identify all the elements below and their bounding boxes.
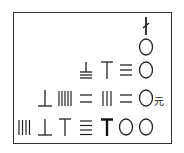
rod-two-horizontal-glyph [118, 88, 134, 108]
zero-glyph [138, 60, 154, 80]
zero-glyph [138, 37, 154, 57]
rod-six-vertical-glyph [57, 117, 73, 137]
unit-label: 元 [154, 93, 164, 108]
zero-glyph [118, 117, 134, 137]
rod-five-vertical-glyph [57, 88, 73, 108]
zero-glyph [138, 117, 154, 137]
negative-rod-glyph [138, 16, 154, 36]
rod-four-vertical-glyph [16, 117, 32, 137]
rod-eight-horizontal-glyph [78, 60, 94, 80]
rod-six-vertical-glyph [99, 60, 115, 80]
rod-two-horizontal-glyph [78, 88, 94, 108]
rod-six-horizontal-glyph [37, 117, 53, 137]
rod-six-horizontal-glyph [37, 88, 53, 108]
zero-glyph [138, 88, 154, 108]
rod-three-horizontal-glyph [118, 60, 134, 80]
rod-four-horizontal-glyph [78, 117, 94, 137]
rod-six-vertical-bold-glyph [99, 117, 115, 137]
rod-three-vertical-glyph [99, 88, 115, 108]
